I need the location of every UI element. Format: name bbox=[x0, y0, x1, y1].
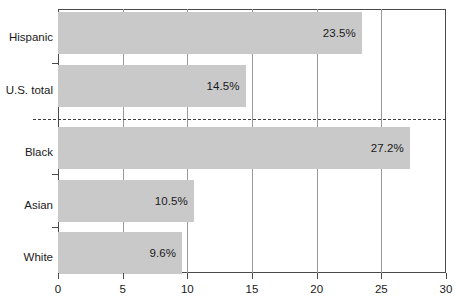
tick-mark-25 bbox=[381, 273, 382, 279]
tick-label-5: 5 bbox=[119, 283, 125, 295]
tick-label-0: 0 bbox=[55, 283, 61, 295]
bar-row-black: 27.2% bbox=[58, 127, 446, 169]
tick-mark-30 bbox=[446, 273, 447, 279]
bar-black bbox=[58, 127, 410, 169]
tick-label-15: 15 bbox=[246, 283, 259, 295]
bar-row-asian: 10.5% bbox=[58, 180, 446, 222]
bar-value-asian: 10.5% bbox=[155, 195, 188, 207]
tick-mark-10 bbox=[187, 273, 188, 279]
tick-label-25: 25 bbox=[375, 283, 388, 295]
group-separator-line bbox=[33, 119, 446, 120]
category-label-white: White bbox=[24, 251, 53, 263]
bar-hispanic bbox=[58, 12, 362, 54]
category-axis-labels: Hispanic U.S. total Black Asian White bbox=[0, 0, 53, 305]
bar-value-us-total: 14.5% bbox=[206, 80, 239, 92]
tick-mark-0 bbox=[58, 273, 59, 279]
tick-label-20: 20 bbox=[310, 283, 323, 295]
bar-row-us-total: 14.5% bbox=[58, 65, 446, 107]
bar-value-black: 27.2% bbox=[371, 142, 404, 154]
tick-mark-15 bbox=[252, 273, 253, 279]
bar-row-white: 9.6% bbox=[58, 232, 446, 274]
tick-label-30: 30 bbox=[440, 283, 453, 295]
bar-row-hispanic: 23.5% bbox=[58, 12, 446, 54]
category-label-asian: Asian bbox=[24, 199, 53, 211]
bar-value-white: 9.6% bbox=[150, 247, 177, 259]
bar-value-hispanic: 23.5% bbox=[323, 27, 356, 39]
category-label-black: Black bbox=[25, 146, 53, 158]
bar-chart: Hispanic U.S. total Black Asian White 23… bbox=[0, 0, 462, 305]
tick-label-10: 10 bbox=[181, 283, 194, 295]
category-label-hispanic: Hispanic bbox=[9, 31, 53, 43]
tick-mark-5 bbox=[123, 273, 124, 279]
tick-mark-20 bbox=[317, 273, 318, 279]
plot-area: 23.5% 14.5% 27.2% 10.5% 9.6% bbox=[58, 9, 446, 273]
category-label-us-total: U.S. total bbox=[6, 84, 53, 96]
